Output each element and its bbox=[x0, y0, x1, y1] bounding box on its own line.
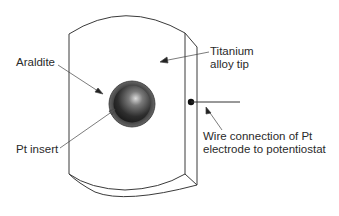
label-titanium-line2: alloy tip bbox=[210, 58, 249, 71]
label-wire-line2: electrode to potentiostat bbox=[203, 143, 326, 156]
label-wire-line1: Wire connection of Pt bbox=[203, 130, 312, 143]
electrode-diagram bbox=[0, 0, 339, 216]
pt-insert bbox=[114, 86, 151, 123]
label-araldite: Araldite bbox=[16, 56, 55, 69]
label-pt-insert: Pt insert bbox=[16, 143, 58, 156]
label-titanium-line1: Titanium bbox=[210, 45, 254, 58]
